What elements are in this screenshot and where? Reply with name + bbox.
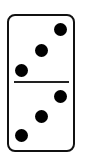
domino-divider xyxy=(14,81,69,83)
pip-icon xyxy=(54,90,67,103)
pip-icon xyxy=(35,110,48,123)
pip-icon xyxy=(15,64,28,77)
pip-icon xyxy=(54,23,67,36)
pip-icon xyxy=(35,44,48,57)
pip-icon xyxy=(15,129,28,142)
